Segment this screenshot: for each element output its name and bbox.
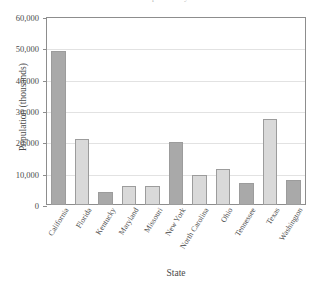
x-axis-tick-label: Tennessee bbox=[233, 206, 258, 238]
y-axis-tick-label: 30,000 bbox=[16, 107, 39, 117]
y-axis-tick-label: 20,000 bbox=[16, 138, 39, 148]
bar[interactable] bbox=[98, 192, 113, 205]
bar[interactable] bbox=[122, 186, 137, 205]
y-axis-tick-label: 40,000 bbox=[16, 76, 39, 86]
bar[interactable] bbox=[239, 183, 254, 205]
x-axis-tick-label: Ohio bbox=[219, 206, 235, 224]
bar[interactable] bbox=[169, 142, 184, 205]
x-axis-tick-label: Maryland bbox=[117, 206, 141, 236]
x-axis-tick-label: New York bbox=[163, 206, 187, 238]
bar[interactable] bbox=[75, 139, 90, 205]
bar[interactable] bbox=[145, 186, 160, 205]
bar[interactable] bbox=[263, 119, 278, 205]
x-axis-title: State bbox=[46, 268, 306, 278]
x-axis-tick-label: Washington bbox=[278, 206, 305, 242]
x-axis-tick-label: Florida bbox=[74, 206, 94, 230]
y-axis-tick-label: 60,000 bbox=[16, 13, 39, 23]
bars-container bbox=[47, 18, 305, 205]
y-axis-tick-label: 0 bbox=[35, 201, 39, 211]
x-axis-tick-labels: CaliforniaFloridaKentuckyMarylandMissour… bbox=[47, 206, 305, 264]
y-axis-tick-label: 10,000 bbox=[16, 170, 39, 180]
y-axis-tick-label: 50,000 bbox=[16, 44, 39, 54]
bar[interactable] bbox=[51, 51, 66, 205]
bar-chart-figure: Population by State Population (thousand… bbox=[0, 0, 313, 286]
bar[interactable] bbox=[216, 169, 231, 205]
x-axis-tick-label: Kentucky bbox=[94, 206, 118, 236]
x-axis-tick-label: California bbox=[46, 206, 70, 238]
x-axis-tick-label: Missouri bbox=[142, 206, 164, 234]
chart-title: Population by State bbox=[50, 0, 300, 2]
bar[interactable] bbox=[192, 175, 207, 205]
x-axis-tick-label: Texas bbox=[264, 206, 281, 226]
y-axis-tick-labels: 60,00050,00040,00030,00020,00010,0000 bbox=[0, 17, 44, 205]
bar[interactable] bbox=[286, 180, 301, 205]
